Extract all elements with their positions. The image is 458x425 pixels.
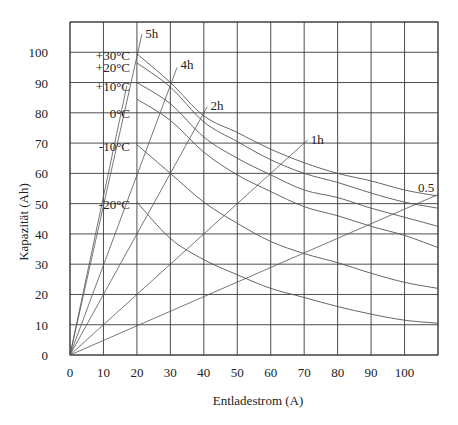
temperature-label: +10°C bbox=[96, 79, 130, 94]
temperature-curve bbox=[137, 54, 438, 196]
y-tick-label: 20 bbox=[35, 287, 48, 302]
rate-label: 1h bbox=[311, 132, 325, 147]
temperature-curve bbox=[137, 83, 438, 227]
x-tick-label: 10 bbox=[97, 365, 110, 380]
temperature-curve bbox=[137, 202, 438, 323]
rate-line bbox=[70, 140, 308, 355]
y-tick-label: 70 bbox=[35, 136, 48, 151]
y-tick-label: 30 bbox=[35, 257, 48, 272]
rate-line bbox=[70, 86, 127, 355]
temperature-curve bbox=[137, 145, 438, 289]
discharge-capacity-chart: 0102030405060708090100 01020304050607080… bbox=[0, 0, 458, 425]
rate-line bbox=[70, 107, 207, 355]
temperature-label: -10°C bbox=[99, 139, 130, 154]
y-tick-label: 60 bbox=[35, 166, 48, 181]
x-axis-ticks: 0102030405060708090100 bbox=[67, 365, 415, 380]
x-tick-label: 100 bbox=[395, 365, 415, 380]
y-axis-title: Kapazität (Ah) bbox=[16, 183, 31, 261]
x-tick-label: 80 bbox=[331, 365, 344, 380]
rate-label: 0.5 bbox=[418, 180, 434, 195]
annotations: 5h4h2h1h0.5+30°C+20°C+10°C0°C-10°C-20°C bbox=[96, 26, 434, 212]
temperature-curves bbox=[137, 54, 438, 323]
y-tick-label: 50 bbox=[35, 197, 48, 212]
x-tick-label: 40 bbox=[197, 365, 210, 380]
x-tick-label: 70 bbox=[298, 365, 311, 380]
rate-label: 4h bbox=[180, 57, 194, 72]
x-axis-title: Entladestrom (A) bbox=[213, 393, 304, 408]
temperature-label: 0°C bbox=[110, 106, 130, 121]
rate-label: 2h bbox=[211, 98, 225, 113]
x-tick-label: 90 bbox=[365, 365, 378, 380]
x-tick-label: 60 bbox=[264, 365, 277, 380]
y-tick-label: 90 bbox=[35, 76, 48, 91]
rate-line bbox=[70, 195, 438, 355]
temperature-label: -20°C bbox=[99, 197, 130, 212]
x-tick-label: 30 bbox=[164, 365, 177, 380]
y-tick-label: 0 bbox=[42, 348, 49, 363]
y-tick-label: 100 bbox=[29, 45, 49, 60]
x-tick-label: 50 bbox=[231, 365, 244, 380]
temperature-label: +20°C bbox=[96, 60, 130, 75]
rate-label: 5h bbox=[145, 26, 159, 41]
y-tick-label: 10 bbox=[35, 318, 48, 333]
y-axis-ticks: 0102030405060708090100 bbox=[29, 45, 49, 363]
temperature-curve bbox=[137, 63, 438, 208]
y-tick-label: 40 bbox=[35, 227, 48, 242]
x-tick-label: 20 bbox=[130, 365, 143, 380]
x-tick-label: 0 bbox=[67, 365, 74, 380]
y-tick-label: 80 bbox=[35, 106, 48, 121]
